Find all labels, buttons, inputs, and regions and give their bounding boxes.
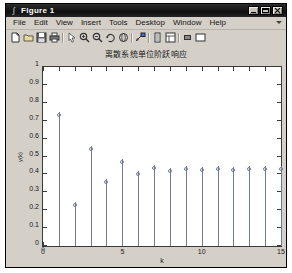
- stem-line: [265, 166, 266, 246]
- data-point-marker[interactable]: [120, 160, 124, 164]
- x-tick: [233, 67, 234, 71]
- data-point-marker[interactable]: [57, 113, 61, 117]
- window-title: Figure 1: [21, 6, 248, 15]
- y-tick: [277, 156, 281, 157]
- x-tick-label: 5: [120, 248, 124, 255]
- y-tick-label: 0.4: [29, 167, 39, 174]
- x-tick: [170, 67, 171, 71]
- data-point-marker[interactable]: [279, 167, 283, 171]
- menu-item-tools[interactable]: Tools: [105, 17, 132, 29]
- stem-line: [138, 171, 139, 246]
- y-tick-label: 0.5: [29, 149, 39, 156]
- hide-plot-tools-icon[interactable]: [181, 31, 194, 44]
- chevron-down-icon[interactable]: [276, 21, 282, 24]
- menu-item-window[interactable]: Window: [169, 17, 205, 29]
- stem-line: [218, 166, 219, 246]
- figure-canvas[interactable]: 离散系统单位阶跃响应 y(k) k 00.10.20.30.40.50.60.7…: [6, 45, 286, 267]
- insert-colorbar-icon[interactable]: [151, 31, 164, 44]
- insert-legend-icon[interactable]: [164, 31, 177, 44]
- window-controls: [248, 6, 284, 15]
- y-tick-label: 0.9: [29, 77, 39, 84]
- x-tick: [122, 67, 123, 71]
- stem-line: [186, 166, 187, 246]
- plot-axes[interactable]: y(k) k 00.10.20.30.40.50.60.70.80.910510…: [42, 66, 282, 247]
- y-tick: [277, 84, 281, 85]
- data-point-marker[interactable]: [152, 166, 156, 170]
- y-tick: [43, 227, 47, 228]
- close-button[interactable]: [272, 6, 283, 15]
- open-file-icon[interactable]: [22, 31, 35, 44]
- x-tick: [281, 67, 282, 71]
- maximize-button[interactable]: [260, 6, 271, 15]
- data-point-marker[interactable]: [136, 172, 140, 176]
- y-tick-label: 1: [35, 60, 39, 67]
- menu-item-file[interactable]: File: [9, 17, 30, 29]
- title-bar[interactable]: ∫ Figure 1: [6, 4, 286, 17]
- stem-line: [122, 159, 123, 246]
- x-tick: [59, 67, 60, 71]
- x-axis-title: k: [43, 257, 281, 264]
- y-tick-label: 0.1: [29, 221, 39, 228]
- matlab-figure-icon: ∫: [9, 6, 18, 15]
- data-point-marker[interactable]: [41, 247, 45, 251]
- data-point-marker[interactable]: [200, 168, 204, 172]
- menu-item-insert[interactable]: Insert: [77, 17, 105, 29]
- y-tick: [43, 173, 47, 174]
- data-point-marker[interactable]: [104, 180, 108, 184]
- save-figure-icon[interactable]: [35, 31, 48, 44]
- data-cursor-icon[interactable]: [134, 31, 147, 44]
- y-tick-label: 0.8: [29, 95, 39, 102]
- data-point-marker[interactable]: [73, 203, 77, 207]
- x-tick: [265, 67, 266, 71]
- pan-rotate-icon[interactable]: [104, 31, 117, 44]
- minimize-button[interactable]: [248, 6, 259, 15]
- y-tick-label: 0.3: [29, 185, 39, 192]
- data-point-marker[interactable]: [184, 167, 188, 171]
- y-tick: [43, 191, 47, 192]
- data-point-marker[interactable]: [216, 167, 220, 171]
- new-figure-icon[interactable]: [9, 31, 22, 44]
- y-tick: [43, 84, 47, 85]
- zoom-out-icon[interactable]: [91, 31, 104, 44]
- stem-line: [202, 167, 203, 246]
- menu-item-help[interactable]: Help: [205, 17, 229, 29]
- data-point-marker[interactable]: [247, 167, 251, 171]
- stem-line: [281, 166, 282, 246]
- stem-line: [59, 112, 60, 246]
- figure-window: ∫ Figure 1 File Edit View Insert Tools D…: [5, 3, 287, 268]
- zoom-in-icon[interactable]: [78, 31, 91, 44]
- stem-line: [233, 167, 234, 246]
- show-plot-tools-icon[interactable]: [194, 31, 207, 44]
- stem-line: [249, 166, 250, 246]
- data-point-marker[interactable]: [168, 169, 172, 173]
- x-tick: [75, 67, 76, 71]
- edit-plot-pointer-icon[interactable]: [65, 31, 78, 44]
- y-tick: [277, 120, 281, 121]
- x-tick: [91, 67, 92, 71]
- stem-line: [154, 165, 155, 246]
- x-tick-label: 15: [277, 248, 285, 255]
- y-tick: [43, 120, 47, 121]
- y-tick-label: 0.6: [29, 131, 39, 138]
- y-tick-label: 0.7: [29, 113, 39, 120]
- x-tick-label: 10: [198, 248, 206, 255]
- x-tick: [218, 67, 219, 71]
- y-tick: [43, 138, 47, 139]
- rotate-3d-icon[interactable]: [117, 31, 130, 44]
- menu-item-view[interactable]: View: [52, 17, 77, 29]
- data-point-marker[interactable]: [231, 168, 235, 172]
- y-axis-title: y(k): [17, 152, 23, 162]
- y-tick-label: 0: [35, 239, 39, 246]
- plot-title: 离散系统单位阶跃响应: [6, 48, 286, 59]
- menu-item-edit[interactable]: Edit: [30, 17, 52, 29]
- stem-line: [75, 202, 76, 246]
- x-tick: [249, 67, 250, 71]
- menu-item-desktop[interactable]: Desktop: [132, 17, 169, 29]
- y-tick: [43, 102, 47, 103]
- print-figure-icon[interactable]: [48, 31, 61, 44]
- data-point-marker[interactable]: [263, 167, 267, 171]
- x-tick: [154, 67, 155, 71]
- data-point-marker[interactable]: [89, 147, 93, 151]
- stem-line: [106, 179, 107, 246]
- y-tick-label: 0.2: [29, 203, 39, 210]
